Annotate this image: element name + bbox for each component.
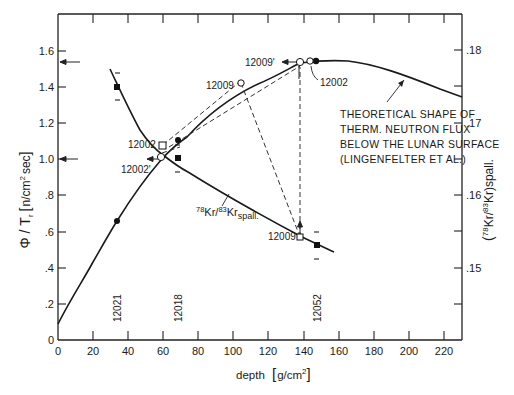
y-tick-label: .8 — [45, 189, 54, 201]
label-12002-pointer — [311, 66, 318, 80]
x-tick-labels: 0 20 40 60 80 100 120 140 160 180 200 22… — [55, 345, 453, 357]
point-12021-flux — [114, 218, 120, 224]
core-label-12021: 12021 — [112, 294, 123, 322]
x-tick-label: 20 — [87, 345, 99, 357]
label-12002: 12002 — [128, 139, 156, 150]
point-12002-kr — [159, 142, 166, 149]
left-axis-arrows — [60, 60, 80, 162]
label-12009-upper: 12009 — [206, 80, 234, 91]
label-12002-right: 12002 — [320, 77, 348, 88]
label-12009-lower: 12009 — [268, 231, 296, 242]
y-axis-title: Φ / Tr[n/cm2sec] — [17, 152, 35, 249]
right-y-tick-label: .15 — [466, 262, 481, 274]
point-12018-flux — [175, 137, 181, 143]
x-tick-label: 80 — [192, 345, 204, 357]
point-12052-flux — [313, 58, 319, 64]
right-y-tick-label: .16 — [466, 189, 481, 201]
x-tick-label: 140 — [295, 345, 313, 357]
label-12009-prime: 12009' — [245, 57, 275, 68]
y-tick-label: .2 — [45, 298, 54, 310]
core-label-12052: 12052 — [312, 294, 323, 322]
x-tick-label: 60 — [157, 345, 169, 357]
y-tick-label: 1.6 — [39, 45, 54, 57]
right-y-axis-ticks — [454, 50, 462, 304]
y-tick-label: 0 — [48, 334, 54, 346]
x-axis-title: depth [g/cm2] — [236, 365, 311, 382]
y-tick-label: 1.2 — [39, 117, 54, 129]
point-12002-flux — [307, 58, 313, 64]
x-tick-label: 160 — [330, 345, 348, 357]
point-12052-kr — [314, 242, 320, 248]
x-tick-label: 180 — [365, 345, 383, 357]
label-12002-prime: 12002' — [121, 164, 151, 175]
y-tick-label: 1.0 — [39, 153, 54, 165]
x-tick-label: 0 — [55, 345, 61, 357]
point-12009-kr — [297, 234, 303, 240]
y-tick-label: .4 — [45, 262, 54, 274]
x-tick-label: 220 — [435, 345, 453, 357]
note-line: BELOW THE LUNAR SURFACE — [340, 138, 500, 150]
note-line: THEORETICAL SHAPE OF — [340, 108, 475, 120]
note-line: THERM. NEUTRON FLUX — [340, 123, 471, 135]
y-tick-label: .6 — [45, 226, 54, 238]
point-12021-kr — [114, 84, 120, 90]
right-y-axis-title: (78Kr/83Kr)spall. — [480, 159, 496, 241]
chart: 0 20 40 60 80 100 120 140 160 180 200 22… — [0, 0, 514, 395]
y-tick-label: 1.4 — [39, 81, 54, 93]
y-axis-ticks — [58, 51, 66, 304]
point-12009-flux — [238, 80, 244, 86]
x-tick-label: 200 — [400, 345, 418, 357]
core-labels: 12021 12018 12052 — [112, 294, 323, 322]
x-tick-label: 40 — [122, 345, 134, 357]
x-tick-label: 120 — [259, 345, 277, 357]
right-y-tick-label: .18 — [466, 44, 481, 56]
point-12018-kr — [175, 155, 181, 161]
core-label-12018: 12018 — [173, 294, 184, 322]
point-12009p-flux — [296, 58, 303, 65]
y-tick-labels: 0 .2 .4 .6 .8 1.0 1.2 1.4 1.6 — [39, 45, 54, 346]
right-y-tick-labels: .18 .17 .16 .15 — [466, 44, 481, 274]
point-12002p-flux — [157, 153, 164, 160]
x-tick-label: 100 — [224, 345, 242, 357]
note-line: (LINGENFELTER ET AL.) — [340, 153, 466, 165]
